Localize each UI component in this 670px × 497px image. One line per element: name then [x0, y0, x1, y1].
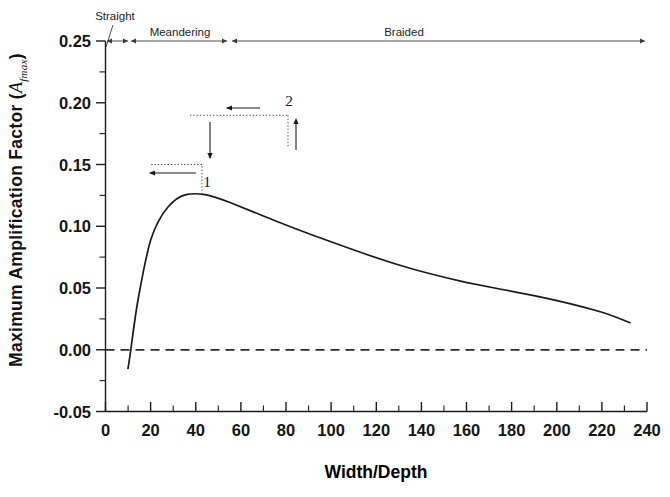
x-tick-label: 220 [588, 421, 616, 439]
x-tick-label: 20 [141, 421, 159, 439]
zone-label-meandering: Meandering [150, 26, 211, 38]
x-tick-label: 240 [633, 421, 661, 439]
y-tick-label: 0.25 [59, 32, 91, 50]
annotation-1-label: 1 [203, 173, 211, 190]
x-tick-label: 200 [543, 421, 571, 439]
y-axis-title-subscript: fmax [16, 59, 28, 82]
y-tick-label: 0.15 [59, 156, 91, 174]
x-tick-label: 120 [363, 421, 391, 439]
annotation-1-left-arrow [149, 170, 196, 175]
x-tick-label: 160 [453, 421, 481, 439]
y-axis-title-wrap: Maximum Amplification Factor (Afmax) [0, 0, 34, 420]
annotation-2-label: 2 [285, 92, 293, 109]
annotation-2-up-arrow [293, 118, 298, 150]
axes-group [106, 41, 648, 412]
zone-arrow-straight [107, 39, 128, 44]
x-axis-title: Width/Depth [325, 462, 428, 482]
annotation-1-down-arrow [207, 122, 212, 159]
y-axis-title-symbol: A [6, 82, 26, 93]
y-axis-title-main: Maximum Amplification Factor ( [6, 93, 26, 367]
x-tick-label: 140 [408, 421, 436, 439]
x-tick-label: 100 [317, 421, 345, 439]
x-axis-title-wrap: Width/Depth [105, 462, 647, 483]
annotation-2-left-arrow [226, 105, 260, 110]
y-tick-label: 0.10 [59, 217, 91, 235]
x-tick-label: 40 [187, 421, 205, 439]
annotation-1-group: 1 [149, 122, 213, 194]
x-tick-label: 60 [232, 421, 250, 439]
annotation-2-group: 2 [190, 92, 299, 150]
y-tick-label: 0.05 [59, 279, 91, 297]
zone-label-straight: Straight [95, 10, 135, 22]
x-tick-labels-group: 0 20 40 60 80 100 120 140 160 180 200 22… [101, 421, 661, 439]
zone-label-braided: Braided [384, 26, 424, 38]
y-tick-label: -0.05 [53, 403, 91, 421]
x-tick-label: 180 [498, 421, 526, 439]
y-axis-title-close: ) [6, 53, 26, 59]
zone-arrow-meandering [131, 39, 227, 44]
amplification-curve [128, 194, 630, 369]
y-axis-title-rotator: Maximum Amplification Factor (Afmax) [0, 0, 34, 420]
y-tick-labels-group: 0.25 0.20 0.15 0.10 0.05 0.00 -0.05 [53, 32, 91, 421]
chart-figure: Straight Meandering Braided [0, 0, 670, 497]
y-tick-label: 0.20 [59, 94, 91, 112]
zone-bracket-group: Straight Meandering Braided [95, 10, 645, 47]
y-axis-title: Maximum Amplification Factor (Afmax) [6, 53, 29, 367]
straight-leader-line [106, 25, 113, 47]
x-tick-label: 0 [101, 421, 110, 439]
zone-arrow-braided [232, 39, 645, 44]
y-tick-label: 0.00 [59, 341, 91, 359]
y-ticks-group [96, 41, 106, 412]
x-ticks-group [106, 402, 648, 412]
amplification-factor-line-chart: Straight Meandering Braided [0, 0, 670, 497]
x-tick-label: 80 [277, 421, 295, 439]
